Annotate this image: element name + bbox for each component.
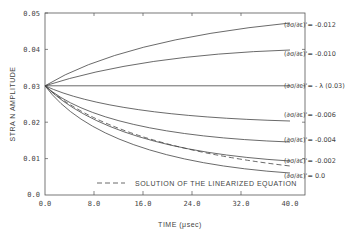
legend: SOLUTION OF THE LINEARIZED EQUATION bbox=[97, 180, 297, 188]
y-tick-0.05: 0.05 bbox=[23, 10, 40, 18]
annotation-lambda: (∂σ/∂ε)'= - λ (0.03) bbox=[284, 82, 345, 90]
strain-amplitude-chart: 0.05 0.04 0.03 0.02 0.01 0.0 0.0 8.0 16.… bbox=[0, 0, 355, 232]
curve-neg-0.010 bbox=[45, 50, 290, 86]
x-tick-32: 32.0 bbox=[233, 200, 250, 208]
y-tick-0.02: 0.02 bbox=[23, 119, 40, 127]
annotation-zero: (∂σ/∂ε)'= 0.0 bbox=[284, 172, 325, 180]
x-tick-24: 24.0 bbox=[184, 200, 201, 208]
x-axis-label: TIME (μsec) bbox=[158, 221, 202, 229]
annotation-neg-0.006: (∂σ/∂ε)'= -0.006 bbox=[284, 111, 336, 119]
curve-annotations: (∂σ/∂ε)'= -0.012 (∂σ/∂ε)'= -0.010 (∂σ/∂ε… bbox=[284, 21, 345, 180]
annotation-neg-0.012: (∂σ/∂ε)'= -0.012 bbox=[284, 21, 336, 29]
y-axis-label: STRA N AMPLITUDE bbox=[9, 67, 16, 142]
curve-neg-0.012 bbox=[45, 23, 290, 86]
curve-neg-0.006 bbox=[45, 86, 290, 121]
y-tick-0.03: 0.03 bbox=[23, 83, 40, 91]
curve-neg-0.002 bbox=[45, 86, 290, 161]
annotation-neg-0.004: (∂σ/∂ε)'= -0.004 bbox=[284, 136, 336, 144]
annotation-neg-0.002: (∂σ/∂ε)'= -0.002 bbox=[284, 157, 336, 165]
annotation-neg-0.010: (∂σ/∂ε)'= -0.010 bbox=[284, 50, 336, 58]
y-tick-0.0: 0.0 bbox=[27, 191, 40, 199]
x-tick-8: 8.0 bbox=[88, 200, 101, 208]
curves bbox=[45, 23, 290, 173]
y-tick-0.01: 0.01 bbox=[23, 155, 40, 163]
curve-linearized-dashed bbox=[45, 86, 290, 166]
x-tick-40: 40.0 bbox=[282, 200, 299, 208]
y-tick-0.04: 0.04 bbox=[23, 46, 40, 54]
legend-label: SOLUTION OF THE LINEARIZED EQUATION bbox=[135, 180, 297, 188]
x-tick-16: 16.0 bbox=[135, 200, 152, 208]
curve-neg-0.004 bbox=[45, 86, 290, 142]
x-tick-0: 0.0 bbox=[39, 200, 52, 208]
